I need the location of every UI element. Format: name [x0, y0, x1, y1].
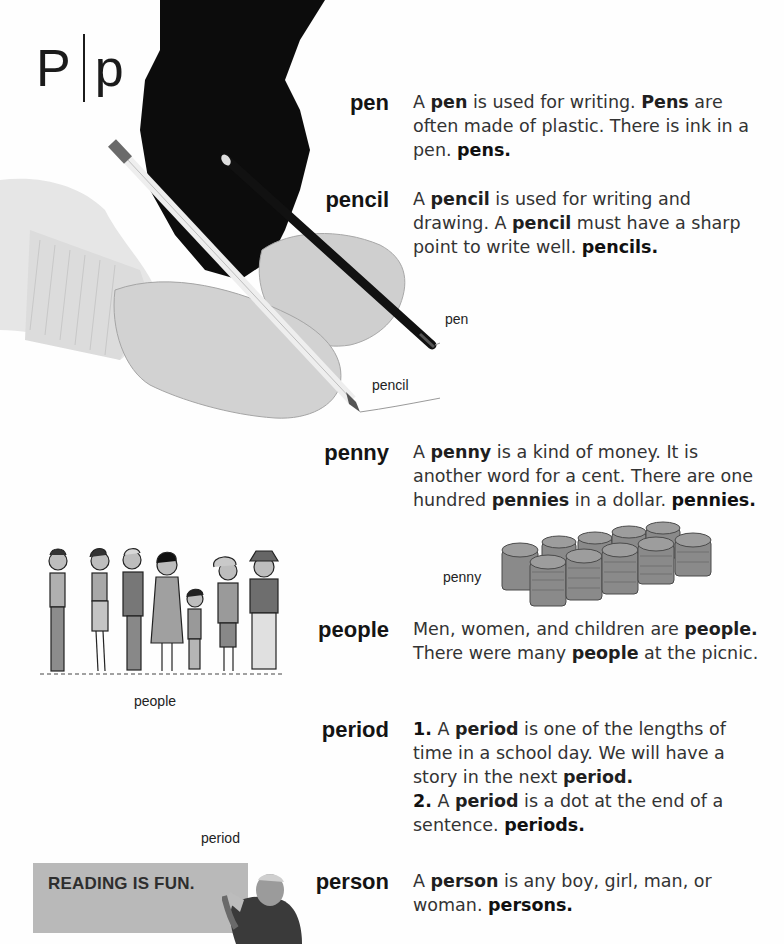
plural-form: periods.: [504, 815, 585, 835]
caption-pencil: pencil: [372, 377, 409, 393]
letter-uppercase: P: [36, 42, 71, 94]
caption-pen: pen: [445, 311, 468, 327]
people-illustration: [40, 543, 290, 683]
entry-pen: pen A pen is used for writing. Pens are …: [300, 90, 760, 162]
definition: A person is any boy, girl, man, or woman…: [413, 869, 760, 917]
definition-text: A: [413, 442, 431, 462]
keyword: period.: [563, 767, 633, 787]
letter-lowercase: p: [95, 42, 124, 94]
sense-number: 1.: [413, 719, 432, 739]
definition-text: Men, women, and children are: [413, 619, 684, 639]
caption-penny: penny: [443, 569, 481, 585]
keyword: pencil: [431, 189, 490, 209]
definition-text: at the picnic.: [639, 643, 759, 663]
man-writing-image: [222, 866, 304, 944]
keyword: pencil: [512, 213, 571, 233]
definition-text: is used for writing.: [467, 92, 641, 112]
caption-people: people: [134, 693, 176, 709]
headword: period: [300, 717, 389, 837]
plural-form: pennies.: [672, 490, 756, 510]
definition: 1. A period is one of the lengths of tim…: [413, 717, 760, 837]
headword: people: [300, 617, 389, 665]
keyword: period: [455, 791, 519, 811]
sign-text: READING IS FUN.: [48, 874, 195, 894]
reading-sign: READING IS FUN.: [33, 863, 248, 933]
definition-text: in a dollar.: [569, 490, 671, 510]
entry-penny: penny A penny is a kind of money. It is …: [300, 440, 760, 512]
headword: penny: [300, 440, 389, 512]
letter-divider: [83, 34, 85, 102]
keyword: people.: [684, 619, 757, 639]
plural-form: persons.: [488, 895, 573, 915]
keyword: Pens: [641, 92, 689, 112]
definition: A pen is used for writing. Pens are ofte…: [413, 90, 760, 162]
definition: A penny is a kind of money. It is anothe…: [413, 440, 760, 512]
headword: person: [300, 869, 389, 917]
headword: pencil: [300, 187, 389, 259]
definition-text: A: [413, 92, 431, 112]
definition-text: A: [413, 871, 431, 891]
definition-text: There were many: [413, 643, 572, 663]
keyword: period: [455, 719, 519, 739]
plural-form: pencils.: [582, 237, 658, 257]
penny-stacks-image: [500, 520, 715, 610]
keyword: people: [572, 643, 639, 663]
entry-people: people Men, women, and children are peop…: [300, 617, 760, 665]
caption-period: period: [201, 830, 240, 846]
definition: Men, women, and children are people. The…: [413, 617, 760, 665]
definition: A pencil is used for writing and drawing…: [413, 187, 760, 259]
headword: pen: [300, 90, 389, 162]
entry-person: person A person is any boy, girl, man, o…: [300, 869, 760, 917]
keyword: penny: [431, 442, 492, 462]
keyword: pennies: [492, 490, 570, 510]
sense-number: 2.: [413, 791, 432, 811]
definition-text: A: [432, 719, 455, 739]
definition-text: A: [432, 791, 455, 811]
letter-header: P p: [36, 34, 124, 102]
dictionary-page: P p pen pencil pen A pen is used for wri…: [0, 0, 784, 944]
entry-pencil: pencil A pencil is used for writing and …: [300, 187, 760, 259]
entry-period: period 1. A period is one of the lengths…: [300, 717, 760, 837]
plural-form: pens.: [457, 140, 511, 160]
keyword: person: [431, 871, 499, 891]
definition-text: A: [413, 189, 431, 209]
keyword: pen: [431, 92, 468, 112]
